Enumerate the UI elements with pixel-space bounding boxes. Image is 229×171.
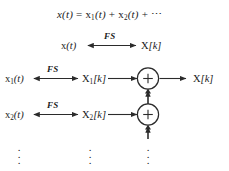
ellipsis-column-freq: . . .: [85, 144, 95, 164]
label-freq-component-2-arg: [k]: [93, 109, 106, 120]
label-freq-component-2: X2[k]: [82, 110, 106, 122]
equation-x-of-t: x(t): [57, 8, 73, 20]
label-output: X[k]: [193, 74, 213, 85]
fs-label-aggregate: FS: [104, 32, 116, 41]
label-time-component-1-arg: (t): [14, 73, 24, 84]
label-output-arg: [k]: [201, 73, 214, 84]
label-time-component-2: x2(t): [5, 110, 24, 122]
label-time-component-1: x1(t): [5, 74, 24, 86]
fourier-series-superposition-diagram: X[k] --> X1[k] --> adder 1 --> X2[k] -->…: [0, 0, 229, 171]
fs-label-component-2: FS: [47, 101, 59, 110]
label-freq-component-1-arg: [k]: [93, 73, 106, 84]
equation-ellipsis: ⋯: [151, 8, 162, 20]
vertical-adder-link: [0, 0, 229, 171]
label-freq-component-1: X1[k]: [82, 74, 106, 86]
equation-equals: =: [76, 8, 82, 20]
label-time-component-2-arg: (t): [14, 109, 24, 120]
label-freq-component-1-base: X: [82, 73, 90, 84]
fs-label-component-1: FS: [47, 65, 59, 74]
ellipsis-column-time: . . .: [14, 144, 24, 164]
label-freq-aggregate: X[k]: [141, 41, 161, 53]
ellipsis-column-adders: . . .: [143, 144, 153, 164]
label-output-base: X: [193, 73, 201, 84]
equation-term2-arg: (t): [128, 8, 139, 20]
label-time-aggregate: x(t): [61, 41, 76, 53]
equation-plus-1: +: [109, 8, 115, 20]
equation-plus-2: +: [142, 8, 148, 20]
equation-term1-arg: (t): [95, 8, 106, 20]
label-freq-aggregate-base: X: [141, 40, 149, 51]
ellipsis-dot: .: [143, 157, 153, 164]
superposition-equation: x(t) = x1(t) + x2(t) + ⋯: [57, 9, 162, 22]
label-freq-aggregate-arg: [k]: [149, 40, 162, 51]
label-time-aggregate-arg: (t): [66, 40, 76, 51]
ellipsis-dot: .: [85, 157, 95, 164]
label-freq-component-2-base: X: [82, 109, 90, 120]
ellipsis-dot: .: [14, 157, 24, 164]
